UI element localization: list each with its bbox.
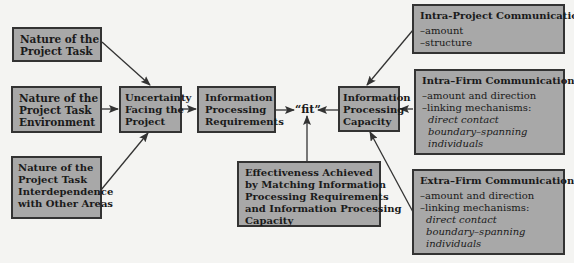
box-uncertainty: Uncertainty Facing the Project (119, 86, 182, 133)
text-line: Environment (19, 116, 94, 128)
text-line: Processing (205, 104, 268, 116)
text-line: and Information Processing (245, 203, 373, 215)
list-item: –linking mechanisms: (420, 202, 557, 214)
text-line: Nature of the (19, 92, 94, 104)
text-line: Capacity (245, 215, 373, 227)
list-item: –amount and direction (420, 190, 557, 202)
list-subitem: direct contact (422, 114, 557, 126)
text-line: Project Task (20, 45, 94, 57)
box-extra-firm-communication: Extra–Firm Communication –amount and dir… (412, 169, 565, 255)
box-nature-task: Nature of the Project Task (12, 27, 102, 62)
list-item: –linking mechanisms: (422, 102, 557, 114)
box-effectiveness: Effectiveness Achieved by Matching Infor… (237, 161, 381, 227)
text-line: Project Task (19, 104, 94, 116)
list-subitem: individuals (420, 238, 557, 250)
text-line: Information (343, 92, 395, 104)
text-line: Facing the (125, 104, 176, 116)
list-subitem: boundary–spanning (420, 226, 557, 238)
box-title: Extra–Firm Communication (420, 175, 557, 187)
text-line: Project (125, 116, 176, 128)
list-item: –amount (420, 25, 557, 37)
text-line: with Other Areas (18, 198, 95, 210)
arrow-interdependence-to-uncertainty (101, 133, 148, 190)
box-info-capacity: Information Processing Capacity (338, 86, 400, 132)
text-line: Project Task (18, 174, 95, 186)
text-line: Processing Requirements (245, 191, 373, 203)
text-line: Nature of the (18, 162, 95, 174)
box-info-requirements: Information Processing Requirements (197, 86, 276, 133)
box-title: Intra–Firm Communication (422, 75, 557, 87)
list-subitem: direct contact (420, 214, 557, 226)
box-nature-environment: Nature of the Project Task Environment (11, 86, 102, 133)
box-intra-project-communication: Intra-Project Communication –amount –str… (412, 4, 565, 54)
text-line: Capacity (343, 116, 395, 128)
box-nature-interdependence: Nature of the Project Task Interdependen… (11, 156, 102, 219)
text-line: Uncertainty (125, 92, 176, 104)
text-line: Processing (343, 104, 395, 116)
box-title: Intra-Project Communication (420, 10, 557, 22)
text-line: Interdependence (18, 186, 95, 198)
text-line: by Matching Information (245, 179, 373, 191)
text-line: Requirements (205, 116, 268, 128)
box-intra-firm-communication: Intra–Firm Communication –amount and dir… (414, 69, 565, 155)
arrow-task-to-uncertainty (102, 42, 150, 85)
list-item: –amount and direction (422, 90, 557, 102)
list-item: –structure (420, 37, 557, 49)
text-line: Nature of the (20, 33, 94, 45)
list-subitem: individuals (422, 138, 557, 150)
fit-label: “fit” (295, 103, 321, 116)
text-line: Effectiveness Achieved (245, 167, 373, 179)
text-line: Information (205, 92, 268, 104)
list-subitem: boundary–spanning (422, 126, 557, 138)
arrow-intraproject-to-capacity (367, 30, 413, 85)
